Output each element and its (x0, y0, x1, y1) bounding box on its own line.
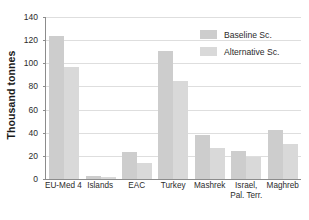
y-tick-label: 60 (29, 105, 38, 115)
bar-group (82, 17, 118, 179)
legend-label: Baseline Sc. (224, 30, 272, 40)
legend-swatch (200, 47, 217, 56)
y-tick-label: 120 (24, 35, 38, 45)
bar (268, 130, 283, 179)
x-tick-label: Israel,Pal. Terr. (228, 181, 265, 201)
bar (231, 151, 246, 179)
x-tick-label: EU-Med 4 (45, 181, 82, 201)
bar-group (46, 17, 82, 179)
bar-group (155, 17, 191, 179)
bar-chart: Thousand tonnes 020406080100120140 EU-Me… (0, 0, 309, 220)
y-tick-label: 20 (29, 151, 38, 161)
legend-item: Alternative Sc. (200, 43, 279, 60)
legend-label: Alternative Sc. (224, 47, 279, 57)
bar (195, 135, 210, 179)
bar (49, 36, 64, 179)
x-tick-label: Turkey (155, 181, 192, 201)
y-tick-mark: 0 (43, 179, 46, 180)
x-tick-label: Maghreb (265, 181, 302, 201)
y-tick-label: 80 (29, 81, 38, 91)
y-tick-label: 100 (24, 58, 38, 68)
bar (283, 144, 298, 179)
y-tick-label: 140 (24, 12, 38, 22)
chart-legend: Baseline Sc.Alternative Sc. (200, 26, 279, 60)
y-axis-title-text: Thousand tonnes (4, 51, 16, 140)
bar (137, 163, 152, 179)
y-tick-label: 0 (33, 174, 38, 184)
bar (246, 157, 261, 179)
bar (173, 81, 188, 179)
bar (101, 177, 116, 179)
bar (64, 67, 79, 179)
legend-swatch (200, 30, 217, 39)
y-tick-label: 40 (29, 128, 38, 138)
x-tick-label: Islands (82, 181, 119, 201)
bar (122, 152, 137, 179)
legend-item: Baseline Sc. (200, 26, 279, 43)
bar (86, 176, 101, 179)
bar (210, 148, 225, 179)
bar-group (119, 17, 155, 179)
x-tick-label: Mashrek (191, 181, 228, 201)
bar (158, 51, 173, 179)
x-axis-labels: EU-Med 4IslandsEACTurkeyMashrekIsrael,Pa… (45, 181, 301, 201)
y-axis-title: Thousand tonnes (0, 0, 20, 190)
x-tick-label: EAC (118, 181, 155, 201)
